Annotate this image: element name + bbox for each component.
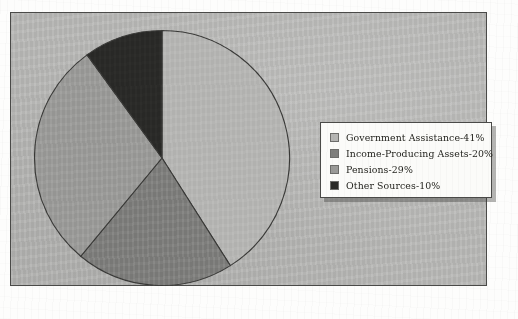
pie-svg <box>33 29 291 287</box>
legend-color-swatch <box>330 149 339 158</box>
pie-chart <box>33 29 291 287</box>
legend-color-swatch <box>330 165 339 174</box>
legend-item: Other Sources-10% <box>330 178 491 193</box>
legend-rows: Government Assistance-41%Income-Producin… <box>330 130 491 193</box>
legend-item-label: Income-Producing Assets-20% <box>346 149 493 158</box>
chart-screenshot: Government Assistance-41%Income-Producin… <box>0 0 518 319</box>
legend-item-label: Government Assistance-41% <box>346 133 484 142</box>
chart-legend: Government Assistance-41%Income-Producin… <box>320 122 492 198</box>
legend-item: Government Assistance-41% <box>330 130 491 145</box>
legend-item-label: Pensions-29% <box>346 165 413 174</box>
legend-color-swatch <box>330 181 339 190</box>
chart-canvas: Government Assistance-41%Income-Producin… <box>10 12 487 286</box>
legend-color-swatch <box>330 133 339 142</box>
pie-slice-group <box>35 31 290 286</box>
legend-item-label: Other Sources-10% <box>346 181 440 190</box>
legend-item: Pensions-29% <box>330 162 491 177</box>
legend-item: Income-Producing Assets-20% <box>330 146 491 161</box>
